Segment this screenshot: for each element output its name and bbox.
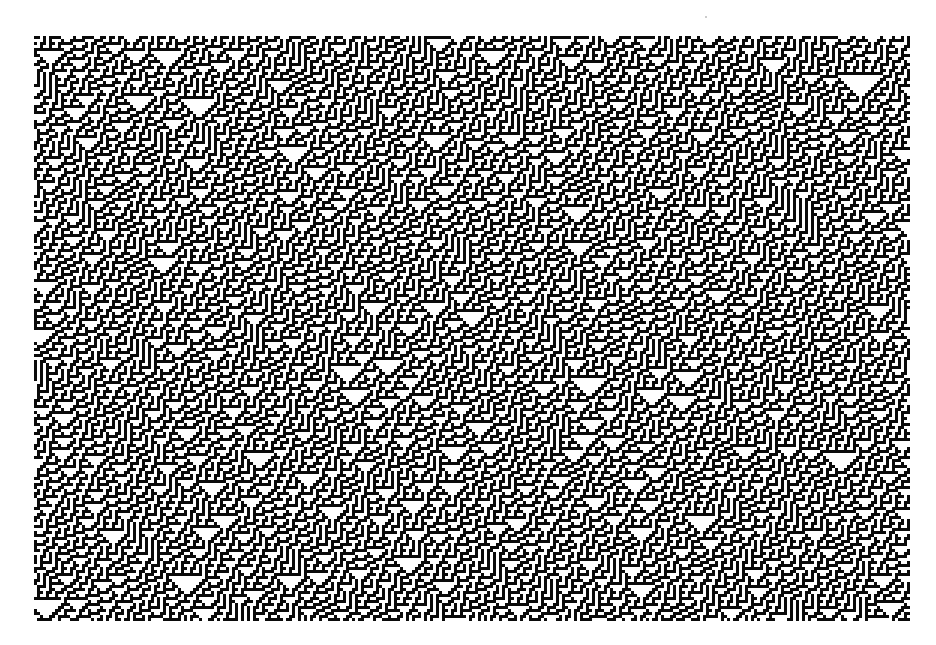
cellular-automaton-pattern xyxy=(34,36,910,621)
scan-speck xyxy=(705,16,707,18)
